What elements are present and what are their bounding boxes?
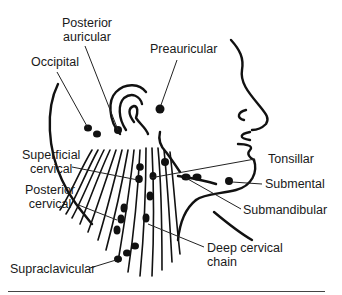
node-superficial-cervical	[136, 163, 144, 171]
label-supraclavicular: Supraclavicular	[10, 262, 95, 276]
ear-inner	[120, 95, 142, 130]
node-posterior-cervical	[121, 204, 128, 213]
label-deep-cervical-chain: Deep cervical chain	[207, 241, 283, 269]
label-submandibular: Submandibular	[243, 203, 327, 217]
lymph-node-diagram: Posterior auricular Preauricular Occipit…	[0, 0, 342, 295]
label-posterior-auricular: Posterior auricular	[62, 16, 112, 44]
node-preauricular	[156, 105, 165, 114]
ear-fold	[130, 106, 149, 134]
label-posterior-cervical: Posterior cervical	[25, 183, 75, 211]
label-preauricular: Preauricular	[150, 42, 217, 56]
bottom-divider	[8, 291, 325, 292]
leader-occipital	[57, 72, 88, 128]
node-tonsillar	[161, 158, 169, 166]
leader-preauricular	[161, 60, 177, 105]
lips	[238, 132, 254, 160]
label-submental: Submental	[265, 177, 325, 191]
label-occipital: Occipital	[31, 55, 79, 69]
nostril	[239, 110, 246, 120]
label-tonsillar: Tonsillar	[268, 152, 314, 166]
face-profile-outline	[231, 40, 268, 130]
node-deep-cervical-chain	[147, 192, 154, 201]
ear-outline	[110, 85, 146, 134]
node-submental	[225, 177, 233, 185]
leader-superficial-cervical	[72, 167, 138, 180]
node-supraclavicular	[114, 256, 122, 263]
neck-front-outline	[178, 200, 196, 240]
leader-deep-cervical-chain	[148, 224, 204, 247]
leader-posterior-auricular	[85, 46, 118, 130]
label-superficial-cervical: Superficial cervical	[22, 148, 80, 176]
